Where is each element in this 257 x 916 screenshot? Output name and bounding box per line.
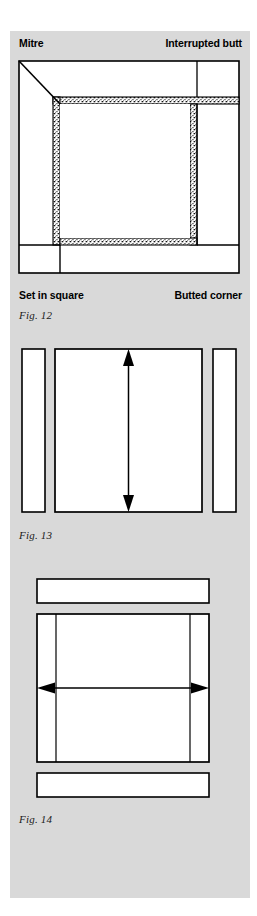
figure-12-drawing [10, 53, 250, 313]
left-side-strip [22, 349, 45, 512]
top-side-strip [37, 579, 209, 603]
figure-14-caption: Fig. 14 [19, 813, 52, 825]
right-stile-stipple [190, 104, 197, 245]
figure-13-drawing [10, 341, 250, 541]
figure-13-caption: Fig. 13 [19, 529, 52, 541]
figure-13: Fig. 13 [10, 341, 250, 566]
label-mitre: Mitre [19, 37, 44, 49]
figure-12: Mitre Interrupted butt Set in square But… [10, 31, 250, 331]
top-rail-stipple [53, 97, 239, 104]
illustration-page: Mitre Interrupted butt Set in square But… [0, 0, 257, 916]
left-stile-stipple [53, 97, 60, 245]
inner-opening [60, 104, 190, 238]
right-side-strip [213, 349, 236, 512]
bottom-rail-stipple [60, 238, 197, 245]
label-interrupted-butt: Interrupted butt [165, 37, 242, 49]
figure-12-caption: Fig. 12 [19, 309, 52, 321]
bottom-side-strip [37, 773, 209, 797]
figure-plate: Mitre Interrupted butt Set in square But… [10, 31, 250, 898]
figure-14: Fig. 14 [10, 571, 250, 898]
